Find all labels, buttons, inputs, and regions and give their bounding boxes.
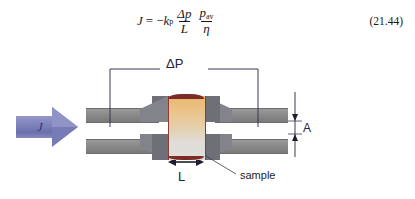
figure-page: J = − kp Δp L pav η (21.44) J [0,0,415,199]
equation-minus-sign: − [156,13,163,29]
sample-block [168,96,206,160]
pressure-drop-label: ΔP [166,56,183,71]
equation-lhs: J [137,13,143,29]
sample-seal-top [168,94,204,99]
fraction2-numerator: pav [197,6,215,21]
fraction2-denominator: η [201,21,211,36]
area-label: A [303,121,311,135]
fraction2-numerator-subscript: av [206,12,214,21]
equation-row: J = − kp Δp L pav η (21.44) [0,6,415,40]
equation-fraction-viscosity: pav η [197,6,215,36]
equation-number: (21.44) [369,15,403,27]
permeation-diagram: J [0,52,415,199]
sample-label: sample [240,169,275,181]
equation-coefficient-subscript: p [169,17,173,26]
holder-left-lower [152,134,168,160]
equation-fraction-pressure-gradient: Δp L [175,7,193,35]
fraction1-numerator: Δp [175,7,193,21]
area-arrowhead-bottom [292,134,298,141]
fraction1-denominator: L [179,21,190,36]
equation-equals: = [146,13,153,29]
equation-expression: J = − kp Δp L pav η [137,6,217,36]
area-arrowhead-top [292,114,298,121]
length-label: L [178,169,185,184]
holder-right-upper [204,96,220,122]
diagram-vector-layer [0,52,415,199]
flux-arrow-label: J [30,119,50,135]
